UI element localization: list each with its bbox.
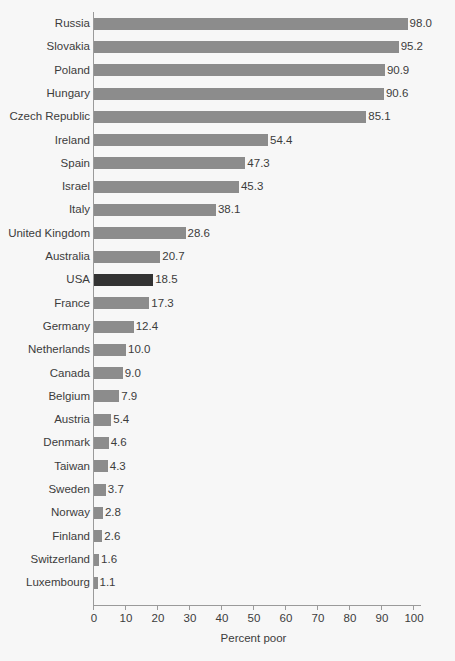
bar [94, 460, 108, 472]
bar-value-label: 95.2 [401, 40, 423, 53]
bar-row: Netherlands10.0 [0, 338, 455, 361]
x-axis-tick [157, 606, 158, 610]
x-axis-tick [125, 606, 126, 610]
bar-value-label: 4.3 [110, 460, 126, 473]
bar-row: Switzerland1.6 [0, 548, 455, 571]
bar-value-label: 1.6 [101, 553, 117, 566]
x-axis-tick-label: 100 [394, 612, 434, 625]
bar-value-label: 17.3 [151, 297, 173, 310]
bar [94, 134, 268, 146]
category-label: Poland [0, 64, 90, 77]
bar-value-label: 18.5 [155, 273, 177, 286]
bar [94, 111, 366, 123]
category-label: USA [0, 273, 90, 286]
bar-value-label: 54.4 [270, 134, 292, 147]
bar-row: Israel45.3 [0, 175, 455, 198]
bar-row: Denmark4.6 [0, 431, 455, 454]
category-label: Canada [0, 367, 90, 380]
plot-area: Russia98.0Slovakia95.2Poland90.9Hungary9… [0, 0, 455, 605]
bar-row: Sweden3.7 [0, 478, 455, 501]
bar [94, 414, 111, 426]
category-label: Norway [0, 506, 90, 519]
category-label: Hungary [0, 87, 90, 100]
bar-row: USA18.5 [0, 268, 455, 291]
bar [94, 554, 99, 566]
x-axis-tick [349, 606, 350, 610]
bar-row: Finland2.6 [0, 525, 455, 548]
x-axis-tick [317, 606, 318, 610]
y-axis-line [93, 12, 94, 606]
category-label: Finland [0, 530, 90, 543]
bar-row: Belgium7.9 [0, 385, 455, 408]
category-label: Israel [0, 180, 90, 193]
bar [94, 321, 134, 333]
bar-value-label: 38.1 [218, 203, 240, 216]
bar-row: Luxembourg1.1 [0, 571, 455, 594]
category-label: Austria [0, 413, 90, 426]
bar-value-label: 5.4 [113, 413, 129, 426]
bar-value-label: 1.1 [100, 576, 116, 589]
x-axis-title-text: Percent poor [221, 632, 287, 644]
bar-value-label: 2.8 [105, 506, 121, 519]
bar-row: Germany12.4 [0, 315, 455, 338]
bar-value-label: 28.6 [188, 227, 210, 240]
category-label: Spain [0, 157, 90, 170]
bar-row: Taiwan4.3 [0, 455, 455, 478]
bar-row: Poland90.9 [0, 59, 455, 82]
category-label: Australia [0, 250, 90, 263]
bar-value-label: 90.9 [387, 64, 409, 77]
bar-row: Canada9.0 [0, 362, 455, 385]
bar-row: Russia98.0 [0, 12, 455, 35]
bar-value-label: 45.3 [241, 180, 263, 193]
x-axis-tick [381, 606, 382, 610]
bar [94, 344, 126, 356]
category-label: Germany [0, 320, 90, 333]
bar [94, 274, 153, 286]
category-label: Luxembourg [0, 576, 90, 589]
bar-row: France17.3 [0, 292, 455, 315]
bar-row: Norway2.8 [0, 501, 455, 524]
category-label: Switzerland [0, 553, 90, 566]
bar [94, 251, 160, 263]
bar-row: Slovakia95.2 [0, 35, 455, 58]
x-axis-title: Percent poor [0, 632, 455, 644]
category-label: Netherlands [0, 343, 90, 356]
category-label: Belgium [0, 390, 90, 403]
x-axis-tick [413, 606, 414, 610]
bar [94, 88, 384, 100]
bar-value-label: 3.7 [108, 483, 124, 496]
category-label: France [0, 297, 90, 310]
bar-row: Ireland54.4 [0, 129, 455, 152]
category-label: Sweden [0, 483, 90, 496]
bar [94, 530, 102, 542]
x-axis-tick [253, 606, 254, 610]
x-axis-tick [221, 606, 222, 610]
category-label: Ireland [0, 134, 90, 147]
bar [94, 507, 103, 519]
bar-row: Australia20.7 [0, 245, 455, 268]
bar [94, 437, 109, 449]
bar [94, 390, 119, 402]
bar [94, 227, 186, 239]
category-label: United Kingdom [0, 227, 90, 240]
bar-value-label: 9.0 [125, 367, 141, 380]
x-axis-line [93, 605, 421, 606]
category-label: Russia [0, 17, 90, 30]
bar [94, 204, 216, 216]
bar-chart: Russia98.0Slovakia95.2Poland90.9Hungary9… [0, 0, 455, 661]
bar-row: Czech Republic85.1 [0, 105, 455, 128]
bar-value-label: 10.0 [128, 343, 150, 356]
bar-row: United Kingdom28.6 [0, 222, 455, 245]
bar [94, 41, 399, 53]
category-label: Italy [0, 203, 90, 216]
bar [94, 297, 149, 309]
bar [94, 484, 106, 496]
bar [94, 577, 98, 589]
category-label: Denmark [0, 436, 90, 449]
bar [94, 18, 408, 30]
bar [94, 181, 239, 193]
bar-value-label: 20.7 [162, 250, 184, 263]
bar-value-label: 98.0 [410, 17, 432, 30]
category-label: Slovakia [0, 40, 90, 53]
bar-value-label: 4.6 [111, 436, 127, 449]
